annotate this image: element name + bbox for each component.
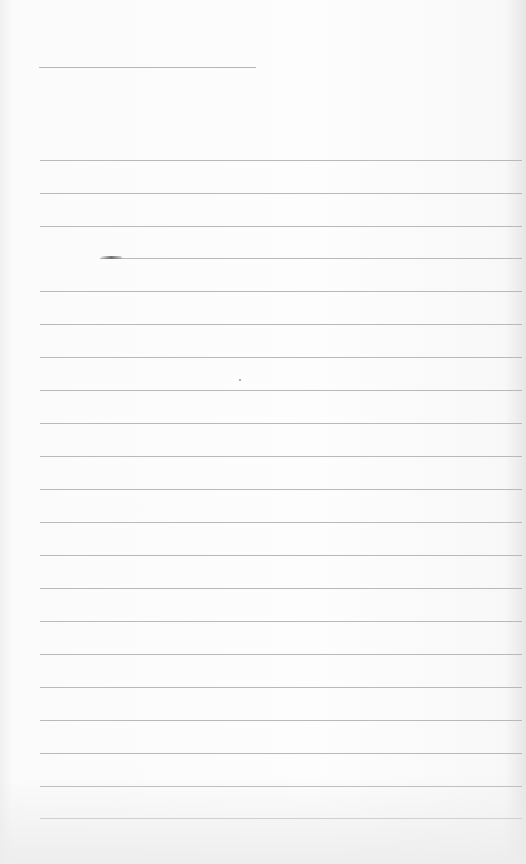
ruled-line — [40, 555, 522, 556]
ruled-line — [40, 291, 522, 292]
ruled-line — [40, 456, 522, 457]
ruled-line — [40, 489, 522, 490]
ruled-line — [40, 654, 522, 655]
lined-paper-sheet — [0, 0, 526, 864]
ruled-line — [40, 687, 522, 688]
ruled-line — [40, 160, 522, 161]
ruled-line — [40, 753, 522, 754]
pencil-smudge — [100, 256, 122, 259]
ruled-line — [40, 357, 522, 358]
ruled-line — [40, 390, 522, 391]
speck — [239, 379, 241, 381]
ruled-line — [40, 621, 522, 622]
ruled-line — [40, 786, 522, 787]
ruled-line — [40, 324, 522, 325]
ruled-line — [40, 522, 522, 523]
ruled-line — [40, 423, 522, 424]
ruled-line — [40, 818, 522, 819]
ruled-line — [40, 720, 522, 721]
title-rule — [39, 67, 256, 68]
ruled-line — [40, 193, 522, 194]
ruled-line — [40, 226, 522, 227]
ruled-line — [100, 258, 522, 259]
ruled-line — [40, 588, 522, 589]
